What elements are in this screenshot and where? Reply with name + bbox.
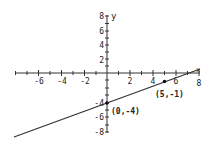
y-tick-label: 2: [99, 56, 104, 65]
x-tick-label: -6: [34, 77, 44, 86]
x-tick-label: -4: [57, 77, 67, 86]
x-tick-label: 4: [151, 77, 156, 86]
y-axis-label: y: [111, 11, 117, 21]
point-label-0-neg4: (0,-4): [111, 107, 140, 116]
point-label-5-neg1: (5,-1): [155, 90, 184, 99]
y-tick-label: 4: [99, 41, 104, 50]
y-tick-label: -8: [94, 128, 104, 137]
y-tick-label: 8: [99, 12, 104, 21]
point-0-neg4: [105, 101, 109, 105]
line-graph: -6 -4 -2 2 4 6 8 8 6 4 2 -4 -6 -8 y x (0…: [0, 0, 215, 149]
point-5-neg1: [163, 80, 167, 84]
x-tick-label: -2: [80, 77, 90, 86]
y-tick-label: -6: [94, 113, 104, 122]
y-tick-label: 6: [99, 27, 104, 36]
x-tick-label: 8: [197, 79, 202, 88]
x-tick-label: 2: [128, 77, 133, 86]
